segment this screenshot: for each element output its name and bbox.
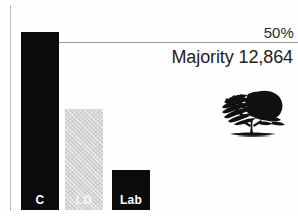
conservative-tree-logo-icon [214,86,290,140]
election-bar-chart: 50% Majority 12,864 C LD Lab [0,0,298,216]
bar-conservative: C [21,32,59,210]
bar-label-conservative: C [21,193,59,207]
bar-labour: Lab [112,170,150,210]
bar-label-labour: Lab [112,193,150,207]
bar-liberal-democrat: LD [65,109,103,210]
bar-label-liberal-democrat: LD [65,193,103,207]
